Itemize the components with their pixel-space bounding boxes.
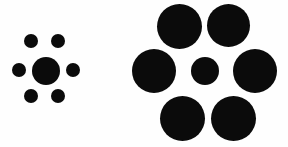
ebbinghaus-illusion-figure: Ebbinghaus Illusion [0, 0, 288, 147]
large-inducers-figure [0, 0, 288, 147]
center-target-right [191, 57, 219, 85]
inducer-right-mid-right [233, 49, 277, 93]
inducer-right-mid-left [132, 49, 176, 93]
inducer-right-bottom-left [160, 96, 205, 141]
inducer-right-top-left [157, 4, 202, 49]
inducer-right-bottom-right [211, 96, 256, 141]
inducer-right-top-right [207, 4, 250, 47]
